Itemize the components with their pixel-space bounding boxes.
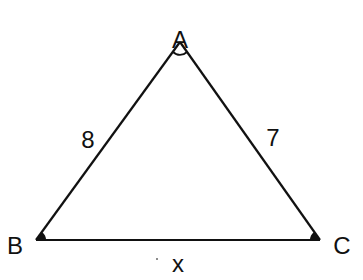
triangle-diagram: A B C 8 7 x	[0, 0, 363, 280]
side-ac	[180, 42, 320, 240]
vertex-label-a: A	[172, 26, 188, 53]
side-label-ab: 8	[81, 126, 94, 153]
stray-dot	[156, 258, 158, 260]
side-label-ac: 7	[266, 124, 279, 151]
side-label-bc: x	[172, 250, 184, 277]
side-ab	[36, 42, 180, 240]
vertex-label-b: B	[7, 232, 23, 259]
vertex-label-c: C	[333, 232, 350, 259]
